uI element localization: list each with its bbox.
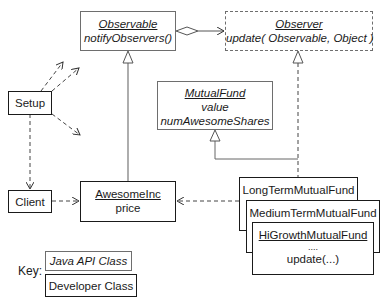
- inheritance-longterm-mutualfund: [210, 130, 298, 159]
- class-name: Setup: [9, 96, 51, 110]
- class-awesome-inc: AwesomeInc price: [80, 181, 176, 222]
- class-name: LongTermMutualFund: [240, 183, 357, 197]
- class-mutual-fund: MutualFund value numAwesomeShares: [157, 81, 273, 130]
- class-method: update(...): [253, 252, 373, 266]
- key-developer-class-label: Developer Class: [46, 279, 136, 293]
- class-method: update( Observable, Object ): [226, 31, 372, 45]
- inheritance-triangle-icon: [210, 130, 220, 141]
- dependency-setup-out-1: [41, 62, 63, 91]
- class-method: notifyObservers(): [81, 31, 175, 45]
- class-name: MediumTermMutualFund: [247, 206, 379, 220]
- key-java-api-class-label: Java API Class: [46, 254, 131, 268]
- class-name: MutualFund: [158, 86, 272, 100]
- key-java-api-class: Java API Class: [45, 251, 132, 271]
- class-hi-growth-mutual-fund: HiGrowthMutualFund .... update(...): [252, 222, 374, 275]
- class-field: value: [158, 100, 272, 114]
- class-name: Client: [9, 195, 51, 209]
- dependency-setup-out-3: [52, 114, 80, 135]
- class-field: numAwesomeShares: [158, 114, 272, 128]
- class-client: Client: [8, 190, 52, 213]
- realization-longterm-observer: [293, 51, 303, 177]
- inheritance-awesomeinc-observable: [123, 51, 133, 181]
- inheritance-triangle-icon: [123, 51, 133, 63]
- class-name: AwesomeInc: [81, 187, 175, 201]
- class-name: Observer: [226, 17, 372, 31]
- aggregation-connector: [176, 27, 224, 35]
- class-setup: Setup: [8, 91, 52, 115]
- interface-observer: Observer update( Observable, Object ): [225, 11, 373, 51]
- class-name: HiGrowthMutualFund: [253, 228, 373, 242]
- realization-triangle-icon: [293, 51, 303, 63]
- class-field: price: [81, 201, 175, 215]
- key-developer-class: Developer Class: [45, 274, 137, 297]
- key-label: Key:: [18, 264, 42, 278]
- class-name: Observable: [81, 17, 175, 31]
- class-observable: Observable notifyObservers(): [80, 11, 176, 51]
- aggregation-diamond-icon: [176, 27, 198, 35]
- class-ellipsis: ....: [253, 242, 373, 252]
